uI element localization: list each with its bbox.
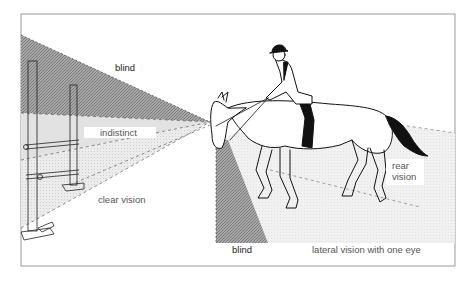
label-blind-upper: blind xyxy=(115,62,135,73)
label-clear-vision: clear vision xyxy=(98,194,146,205)
label-rear-vision-line2: vision xyxy=(392,171,416,182)
label-blind-lower: blind xyxy=(232,244,252,255)
label-rear-vision-line1: rear xyxy=(392,160,409,171)
vision-diagram: blind indistinct clear vision blind late… xyxy=(0,0,472,295)
label-indistinct: indistinct xyxy=(100,127,137,138)
label-lateral-vision: lateral vision with one eye xyxy=(312,244,421,255)
